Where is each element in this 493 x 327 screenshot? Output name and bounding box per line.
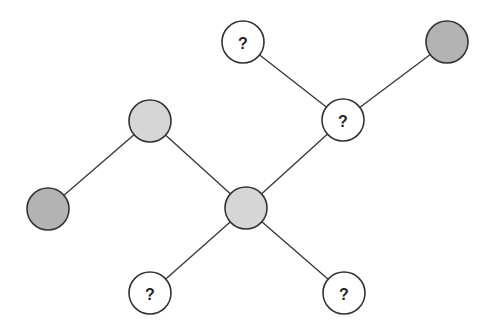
edges-layer [48,42,447,293]
node-light [129,100,171,142]
node-circle [27,188,69,230]
question-mark-label: ? [238,35,248,52]
node-circle [426,21,468,63]
tree-diagram: ???? [0,0,493,327]
nodes-layer: ???? [27,21,468,314]
node-unknown: ? [323,272,365,314]
node-light [225,187,267,229]
question-mark-label: ? [338,113,348,130]
node-unknown: ? [129,272,171,314]
question-mark-label: ? [339,286,349,303]
node-dark [27,188,69,230]
node-unknown: ? [322,99,364,141]
question-mark-label: ? [145,286,155,303]
node-unknown: ? [222,21,264,63]
node-circle [129,100,171,142]
node-circle [225,187,267,229]
node-dark [426,21,468,63]
